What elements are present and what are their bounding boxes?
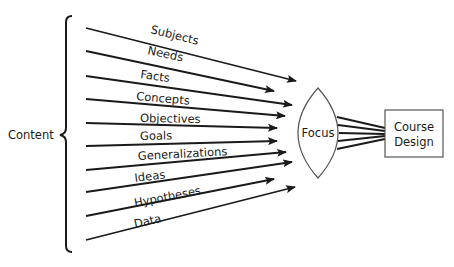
- input-label: Needs: [146, 43, 184, 64]
- course-design-label-line1: Course: [394, 120, 434, 134]
- input-label: Goals: [140, 128, 172, 143]
- input-label: Concepts: [136, 89, 191, 108]
- input-label: Objectives: [140, 111, 201, 126]
- content-label: Content: [8, 128, 54, 142]
- course-design-label-line2: Design: [394, 135, 434, 149]
- input-label: Facts: [140, 67, 171, 85]
- input-label: Ideas: [134, 167, 166, 185]
- input-label: Generalizations: [137, 144, 227, 163]
- focus-label: Focus: [302, 126, 335, 140]
- content-focus-diagram: Content SubjectsNeedsFactsConceptsObject…: [0, 0, 454, 267]
- input-arrow: [86, 141, 277, 146]
- content-brace: [60, 16, 72, 252]
- converging-lines: [337, 117, 385, 149]
- input-arrows: SubjectsNeedsFactsConceptsObjectivesGoal…: [86, 22, 296, 240]
- input-label: Hypotheses: [133, 183, 202, 210]
- input-label: Data: [133, 211, 163, 231]
